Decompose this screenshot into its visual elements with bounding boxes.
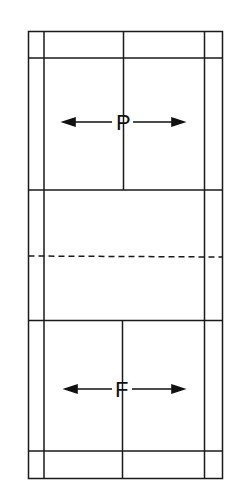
top-player-label: P bbox=[116, 110, 131, 135]
arrow-right-icon bbox=[172, 385, 184, 393]
court-outer-boundary bbox=[29, 32, 223, 479]
arrow-right-icon bbox=[172, 118, 184, 126]
court-diagram: P F bbox=[0, 0, 235, 487]
net-line bbox=[29, 256, 223, 257]
arrow-left-icon bbox=[63, 118, 75, 126]
arrow-left-icon bbox=[65, 385, 77, 393]
bottom-player-label: F bbox=[115, 377, 128, 402]
